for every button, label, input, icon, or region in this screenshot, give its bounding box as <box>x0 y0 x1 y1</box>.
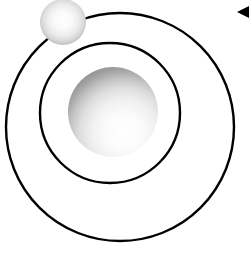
atom-diagram-svg <box>0 0 249 255</box>
nucleus-sphere <box>68 67 158 157</box>
electron-sphere <box>40 0 86 45</box>
atom-diagram-canvas: Nucleus Electron Outer orbit Inner orbit… <box>0 0 249 255</box>
